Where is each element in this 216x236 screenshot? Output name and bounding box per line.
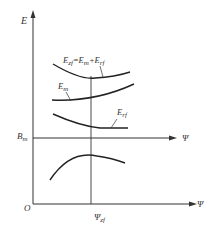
bm-label: Bm: [17, 131, 28, 143]
psi-zf-label: Ψzf: [94, 212, 106, 224]
origin-label: O: [24, 203, 31, 213]
energy-diagram: E O Ψ Ψ Bm Ψzf Ezf=Em+Erf Em Erf: [0, 0, 216, 236]
leader-e-rf: [111, 119, 117, 128]
x-axis-label: Ψ: [197, 199, 204, 209]
x-axis-arrow-icon: [189, 202, 197, 207]
leader-e-zf: [100, 66, 103, 77]
curve-lower-arch: [50, 155, 125, 180]
curve-e-zf: [53, 64, 130, 78]
y-axis-arrow-icon: [31, 10, 36, 18]
bm-axis-label: Ψ: [182, 133, 189, 143]
y-axis-label: E: [20, 15, 27, 26]
e-m-label: Em: [57, 81, 68, 93]
e-zf-formula-label: Ezf=Em+Erf: [62, 55, 106, 67]
diagram-svg: E O Ψ Ψ Bm Ψzf Ezf=Em+Erf Em Erf: [0, 0, 216, 236]
e-rf-label: Erf: [116, 107, 128, 119]
bm-arrow-icon: [169, 136, 177, 141]
